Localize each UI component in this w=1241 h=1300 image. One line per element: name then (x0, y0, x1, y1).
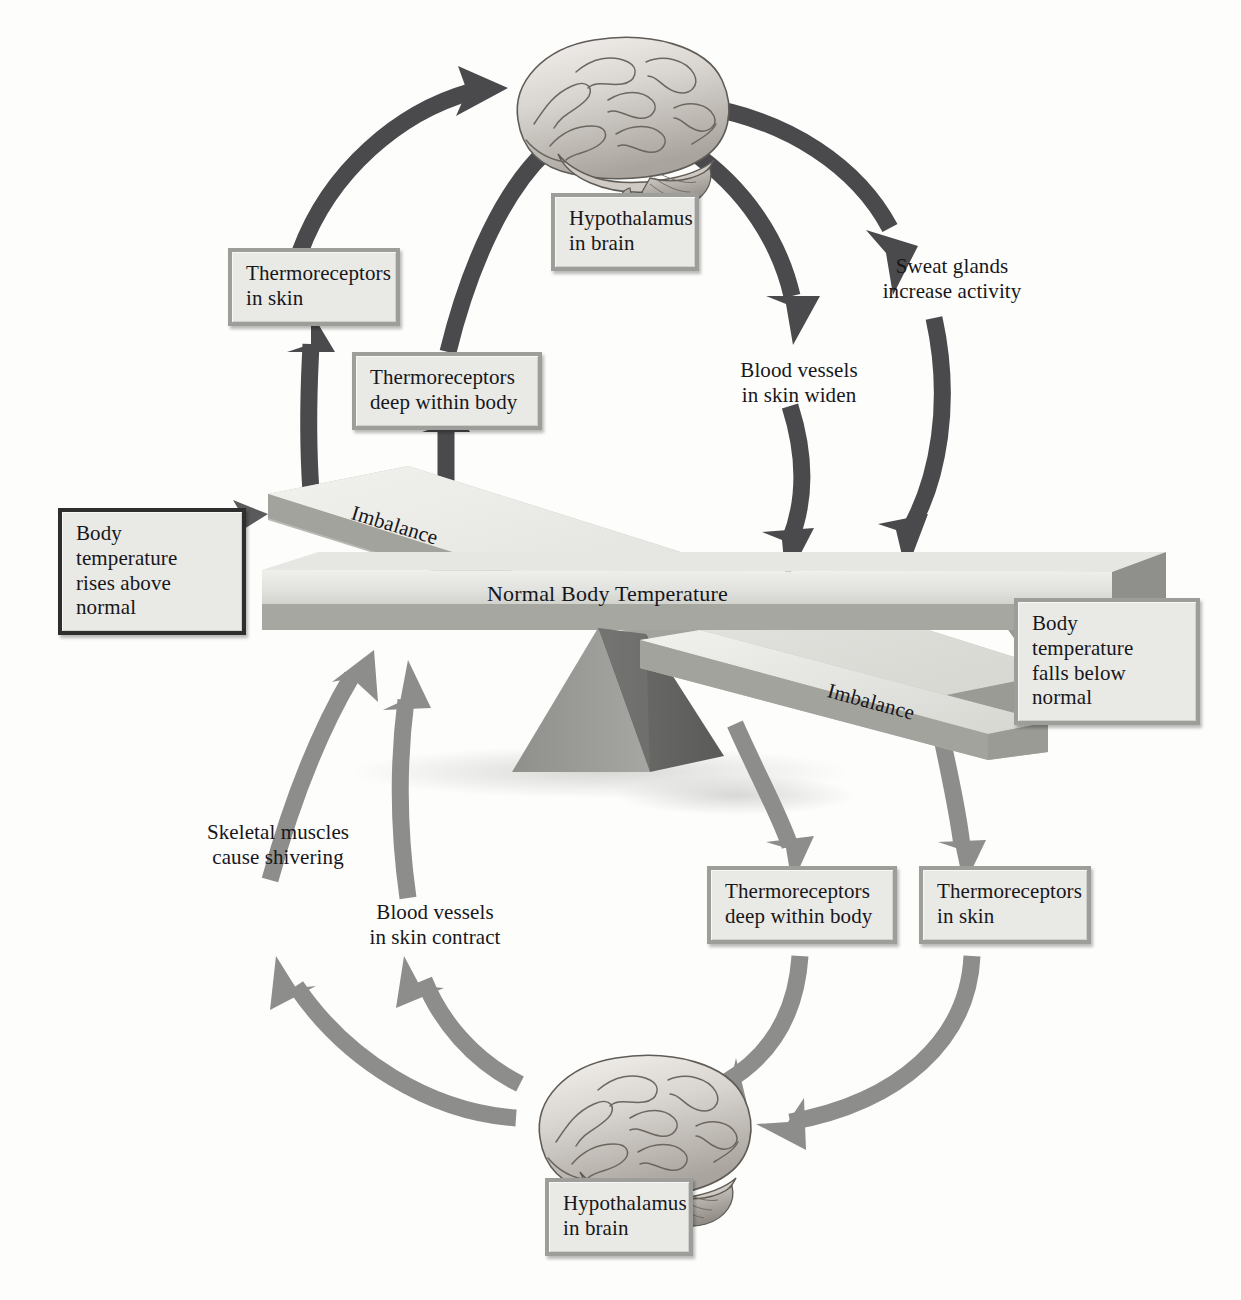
arrow-deep-to-brain-cold (700, 956, 800, 1108)
cold-shivering-label: Skeletal muscles cause shivering (180, 820, 376, 870)
cold-thermoreceptors-deep-box[interactable]: Thermoreceptors deep within body (707, 866, 897, 944)
cold-blood-vessels-contract-label: Blood vessels in skin contract (345, 900, 525, 950)
normal-body-temperature-label: Normal Body Temperature (487, 581, 728, 607)
fulcrum-pyramid (512, 628, 724, 772)
arrow-brain-to-vessels-contract (396, 956, 520, 1084)
trigger-temp-rises-box[interactable]: Body temperature rises above normal (58, 508, 246, 635)
arrow-skin-to-brain-cold (756, 956, 972, 1150)
trigger-temp-falls-box[interactable]: Body temperature falls below normal (1014, 598, 1200, 725)
arrow-skin-to-brain-hot (300, 66, 508, 252)
arrow-brain-to-shivering (270, 956, 516, 1118)
arrow-balance-to-deep-cold (735, 724, 814, 884)
diagram-canvas: Hypothalamus in brain Thermoreceptors in… (0, 0, 1241, 1300)
arrow-vessels-widen-to-balance (762, 406, 814, 582)
hot-sweat-glands-label: Sweat glands increase activity (864, 254, 1040, 304)
arrow-balance-to-skin-cold (938, 720, 986, 886)
arrow-sweat-to-balance (878, 318, 942, 572)
arrow-brain-to-vessels-widen (690, 150, 820, 345)
cold-thermoreceptors-skin-box[interactable]: Thermoreceptors in skin (919, 866, 1091, 944)
imbalance-label-bottom: Imbalance (825, 678, 918, 725)
hot-thermoreceptors-deep-box[interactable]: Thermoreceptors deep within body (352, 352, 542, 430)
arrow-balance-to-skin-hot (287, 312, 335, 492)
cold-hypothalamus-box[interactable]: Hypothalamus in brain (545, 1178, 693, 1256)
imbalance-label-top: Imbalance (348, 501, 441, 551)
hot-hypothalamus-box[interactable]: Hypothalamus in brain (551, 193, 699, 271)
arrow-vessels-contract-to-balance (383, 660, 431, 898)
hot-blood-vessels-widen-label: Blood vessels in skin widen (724, 358, 874, 408)
hot-thermoreceptors-skin-box[interactable]: Thermoreceptors in skin (228, 248, 400, 326)
